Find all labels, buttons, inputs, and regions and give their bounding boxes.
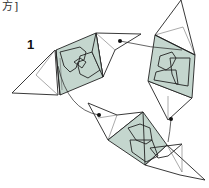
module-bottom <box>88 103 205 180</box>
module-right <box>148 0 195 120</box>
origami-diagram <box>0 0 209 188</box>
connector-dot-2 <box>97 113 101 117</box>
connector-dot-3 <box>169 117 173 121</box>
connector-dot-1 <box>118 39 122 43</box>
arrow-connector-3 <box>168 119 171 142</box>
module-upper-left <box>12 33 141 95</box>
